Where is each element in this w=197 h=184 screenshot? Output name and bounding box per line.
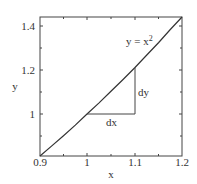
y-axis-label: y <box>12 80 18 92</box>
dy-label: dy <box>138 86 150 98</box>
y-tick-label: 1.4 <box>21 20 35 32</box>
curve-y-equals-x-squared <box>40 17 182 156</box>
x-axis-label: x <box>108 168 114 180</box>
dx-label: dx <box>106 116 118 128</box>
x-tick-label: 1.2 <box>175 156 189 168</box>
chart: y = x2 dx dy 0.9 1 1.1 1.2 x 1 1.2 1.4 y <box>0 0 197 184</box>
y-tick-label: 1 <box>30 108 36 120</box>
x-tick-label: 1 <box>84 156 90 168</box>
curve-label: y = x2 <box>126 34 153 47</box>
x-tick-label: 0.9 <box>33 156 47 168</box>
plot-frame <box>40 17 182 156</box>
y-tick-label: 1.2 <box>21 64 35 76</box>
x-tick-label: 1.1 <box>128 156 142 168</box>
